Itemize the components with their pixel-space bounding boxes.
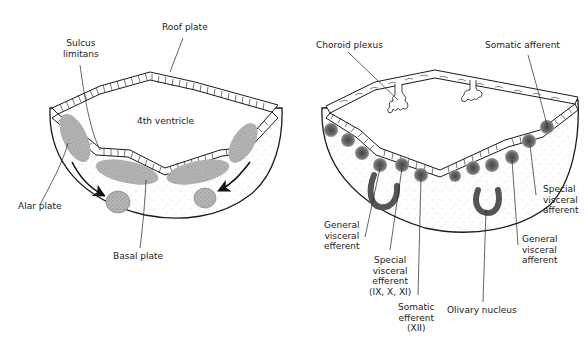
nucleus-r3 — [485, 158, 499, 172]
nucleus-somatic-afferent — [540, 120, 554, 134]
migrated-nucleus-right — [194, 188, 216, 208]
label-choroid-plexus: Choroid plexus — [316, 40, 383, 51]
nucleus-r1 — [449, 170, 461, 182]
migrated-nucleus-left — [106, 191, 130, 213]
nucleus-l3 — [355, 146, 369, 160]
diagram-canvas: Roof plate Sulcus limitans 4th ventricle… — [0, 0, 588, 346]
label-roof-plate: Roof plate — [162, 22, 208, 33]
nucleus-sva — [522, 134, 536, 148]
nucleus-l1 — [324, 123, 338, 137]
left-panel — [40, 38, 282, 248]
label-sulcus-limitans: Sulcus limitans — [63, 38, 99, 59]
label-fourth-ventricle: 4th ventricle — [137, 116, 194, 127]
nucleus-r2 — [466, 161, 480, 175]
label-alar-plate: Alar plate — [18, 201, 62, 212]
label-general-visceral-efferent: General visceral efferent — [324, 220, 360, 252]
label-special-visceral-efferent: Special visceral efferent (IX, X, XI) — [369, 255, 411, 297]
label-somatic-afferent: Somatic afferent — [485, 40, 560, 51]
label-special-visceral-afferent: Special visceral afferent — [543, 184, 579, 216]
label-general-visceral-afferent: General visceral afferent — [522, 234, 558, 266]
label-basal-plate: Basal plate — [113, 251, 163, 262]
leader-roof-plate — [170, 38, 183, 72]
nucleus-gve-left — [373, 158, 387, 172]
label-somatic-efferent: Somatic efferent (XII) — [398, 302, 434, 334]
label-olivary-nucleus: Olivary nucleus — [447, 305, 517, 316]
nucleus-l2 — [341, 133, 355, 147]
